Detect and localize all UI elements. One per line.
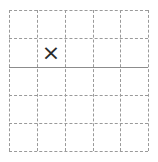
board-cell-r0-c4[interactable] — [120, 10, 148, 38]
board-cell-r2-c0[interactable] — [9, 67, 37, 95]
board-cell-r2-c4[interactable] — [120, 67, 148, 95]
board-cell-r3-c0[interactable] — [9, 95, 37, 123]
board-cell-r1-c4[interactable] — [120, 38, 148, 67]
board-cell-r4-c0[interactable] — [9, 123, 37, 151]
grid-line-vertical — [148, 10, 149, 151]
board-cell-r4-c3[interactable] — [93, 123, 120, 151]
board-cell-r1-c1[interactable]: × — [37, 38, 65, 67]
board-cell-r4-c1[interactable] — [37, 123, 65, 151]
board-cell-r3-c4[interactable] — [120, 95, 148, 123]
board-cell-r0-c0[interactable] — [9, 10, 37, 38]
grid-line-horizontal — [9, 151, 148, 152]
board-cell-r1-c0[interactable] — [9, 38, 37, 67]
board-cell-r3-c1[interactable] — [37, 95, 65, 123]
board-cell-r0-c3[interactable] — [93, 10, 120, 38]
board-cell-r0-c2[interactable] — [65, 10, 93, 38]
board-cell-r2-c1[interactable] — [37, 67, 65, 95]
board-cell-r3-c3[interactable] — [93, 95, 120, 123]
board-cell-r0-c1[interactable] — [37, 10, 65, 38]
board-cell-r4-c2[interactable] — [65, 123, 93, 151]
board-cell-r3-c2[interactable] — [65, 95, 93, 123]
board-cell-r1-c2[interactable] — [65, 38, 93, 67]
board-cell-r1-c3[interactable] — [93, 38, 120, 67]
board-cell-r2-c3[interactable] — [93, 67, 120, 95]
game-board: × — [9, 10, 148, 151]
board-cell-r4-c4[interactable] — [120, 123, 148, 151]
board-cell-r2-c2[interactable] — [65, 67, 93, 95]
x-mark-icon: × — [42, 42, 60, 64]
